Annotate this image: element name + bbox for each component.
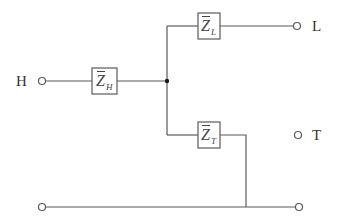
terminal-label-l: L [312, 19, 321, 34]
terminal-t [295, 132, 302, 139]
impedance-subscript-zh: H [106, 82, 113, 92]
terminal-l [294, 23, 301, 30]
wire-zt-to-ground [220, 135, 246, 207]
junction-dot [165, 79, 169, 83]
impedance-subscript-zt: T [211, 136, 216, 146]
terminal-reference-right [296, 204, 303, 211]
terminal-reference-left [39, 204, 46, 211]
terminal-label-h: H [16, 74, 27, 89]
impedance-label-zh: ZH [96, 73, 112, 89]
impedance-label-zt: ZT [201, 127, 216, 143]
circuit-diagram [0, 0, 342, 222]
impedance-subscript-zl: L [211, 27, 216, 37]
impedance-symbol-zl: Z [201, 18, 210, 34]
impedance-label-zl: ZL [201, 18, 216, 34]
terminal-label-t: T [312, 128, 321, 143]
impedance-symbol-zh: Z [96, 73, 105, 89]
terminal-h [39, 78, 46, 85]
impedance-symbol-zt: Z [201, 127, 210, 143]
